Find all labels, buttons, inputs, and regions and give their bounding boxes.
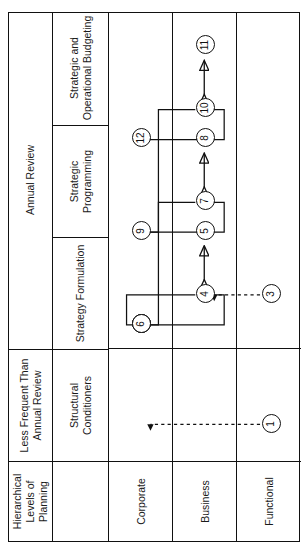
- planning-matrix: Hierarchical Levels of Planning Less Fre…: [8, 12, 300, 542]
- node-1[interactable]: 1: [262, 415, 281, 434]
- table-row: Corporate: [109, 13, 173, 541]
- row-label-corporate: Corporate: [109, 461, 172, 541]
- column-header-spacer: [53, 461, 108, 541]
- figure-body: Hierarchical Levels of Planning Less Fre…: [8, 12, 300, 542]
- header-group-row: Hierarchical Levels of Planning Less Fre…: [9, 13, 53, 541]
- column-header-structural-conditioners: Structural Conditioners: [53, 349, 108, 461]
- column-header-strategic-operational-budgeting: Strategic and Operational Budgeting: [53, 11, 108, 125]
- column-header-strategy-formulation: Strategy Formulation: [53, 237, 108, 349]
- column-header-strategic-programming: Strategic Programming: [53, 125, 108, 237]
- node-11[interactable]: 11: [196, 36, 215, 55]
- row-label-functional: Functional: [237, 461, 301, 541]
- node-4[interactable]: 4: [196, 285, 215, 304]
- table-row: Functional: [237, 13, 301, 541]
- node-8[interactable]: 8: [196, 129, 215, 148]
- node-10[interactable]: 10: [196, 99, 215, 118]
- node-9[interactable]: 9: [132, 222, 151, 241]
- node-3[interactable]: 3: [262, 285, 281, 304]
- header-group-less-frequent: Less Frequent Than Annual Review: [9, 349, 52, 461]
- node-6[interactable]: 6: [132, 315, 151, 334]
- column-header-row: Structural Conditioners Strategy Formula…: [53, 13, 109, 541]
- grid-divider: [109, 348, 301, 349]
- corner-header: Hierarchical Levels of Planning: [9, 461, 52, 541]
- node-12[interactable]: 12: [132, 129, 151, 148]
- row-label-business: Business: [173, 461, 236, 541]
- node-7[interactable]: 7: [196, 192, 215, 211]
- table-row: Business: [173, 13, 237, 541]
- header-group-annual-review: Annual Review: [9, 11, 52, 349]
- node-5[interactable]: 5: [196, 222, 215, 241]
